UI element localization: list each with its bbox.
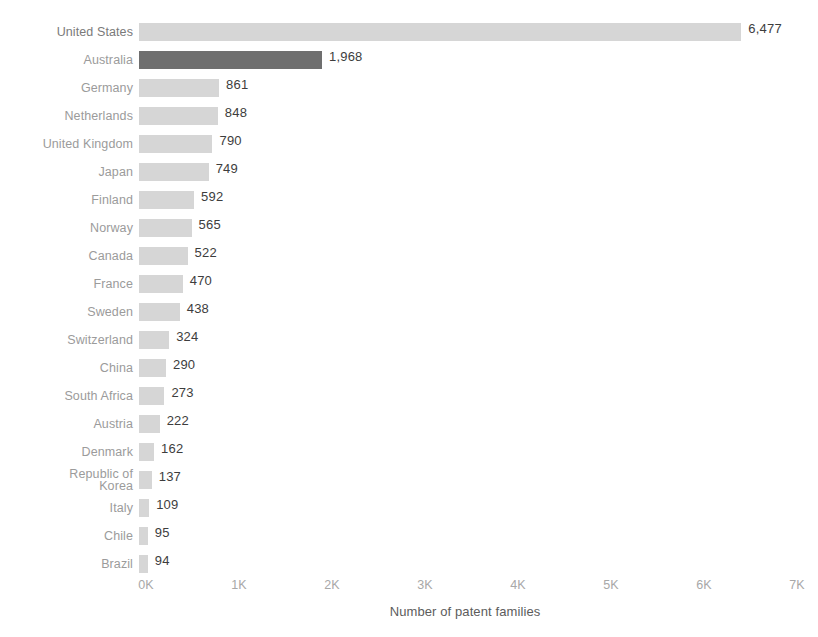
bar-row[interactable]: United Kingdom790: [0, 130, 818, 158]
bar-row[interactable]: Republic ofKorea137: [0, 466, 818, 494]
bar-track: [139, 191, 194, 209]
bar-row[interactable]: Canada522: [0, 242, 818, 270]
bar[interactable]: [139, 555, 148, 573]
category-label: Chile: [0, 530, 133, 543]
x-axis-tick-label: 2K: [324, 578, 339, 592]
bar-value-label: 95: [155, 525, 170, 540]
bar-value-label: 438: [187, 301, 209, 316]
category-label: South Africa: [0, 390, 133, 403]
bar[interactable]: [139, 79, 219, 97]
bar-track: [139, 527, 148, 545]
bar-value-label: 522: [195, 245, 217, 260]
bar[interactable]: [139, 499, 149, 517]
bar-track: [139, 471, 152, 489]
bar[interactable]: [139, 415, 160, 433]
bar-value-label: 324: [176, 329, 198, 344]
x-axis-tick-label: 5K: [603, 578, 618, 592]
x-axis-tick-label: 6K: [696, 578, 711, 592]
category-label: Italy: [0, 502, 133, 515]
bar-row[interactable]: United States6,477: [0, 18, 818, 46]
bar-track: [139, 163, 209, 181]
bar-track: [139, 303, 180, 321]
category-label: Japan: [0, 166, 133, 179]
category-label: Sweden: [0, 306, 133, 319]
x-axis-tick-label: 3K: [417, 578, 432, 592]
bar-track: [139, 107, 218, 125]
bar-value-label: 290: [173, 357, 195, 372]
bar[interactable]: [139, 219, 192, 237]
bar[interactable]: [139, 471, 152, 489]
bar[interactable]: [139, 275, 183, 293]
bar-track: [139, 275, 183, 293]
x-axis-title-text: Number of patent families: [390, 604, 541, 619]
bar-row[interactable]: Finland592: [0, 186, 818, 214]
x-axis-title: Number of patent families: [0, 604, 818, 619]
bar[interactable]: [139, 359, 166, 377]
bar-row[interactable]: Japan749: [0, 158, 818, 186]
x-axis-tick-label: 1K: [231, 578, 246, 592]
bar-row[interactable]: Australia1,968: [0, 46, 818, 74]
category-label: Norway: [0, 222, 133, 235]
bar-row[interactable]: Austria222: [0, 410, 818, 438]
bar-row[interactable]: Norway565: [0, 214, 818, 242]
bar-row[interactable]: Sweden438: [0, 298, 818, 326]
bar-row[interactable]: Chile95: [0, 522, 818, 550]
bar[interactable]: [139, 135, 212, 153]
bar-value-label: 592: [201, 189, 223, 204]
bar[interactable]: [139, 107, 218, 125]
bar-chart: United States6,477Australia1,968Germany8…: [0, 0, 818, 637]
bar-value-label: 222: [167, 413, 189, 428]
bar-row[interactable]: Denmark162: [0, 438, 818, 466]
category-label: Republic ofKorea: [0, 468, 133, 493]
bar-value-label: 109: [156, 497, 178, 512]
bar-row[interactable]: Netherlands848: [0, 102, 818, 130]
bar-row[interactable]: South Africa273: [0, 382, 818, 410]
category-label: Denmark: [0, 446, 133, 459]
bar[interactable]: [139, 387, 164, 405]
x-axis-tick-label: 7K: [789, 578, 804, 592]
bar[interactable]: [139, 303, 180, 321]
bar-track: [139, 555, 148, 573]
category-label: United States: [0, 26, 133, 39]
bar[interactable]: [139, 527, 148, 545]
plot-area: United States6,477Australia1,968Germany8…: [0, 18, 818, 568]
bar-value-label: 749: [216, 161, 238, 176]
bar-track: [139, 331, 169, 349]
bar-highlighted[interactable]: [139, 51, 322, 69]
bar[interactable]: [139, 247, 188, 265]
category-label: Australia: [0, 54, 133, 67]
bar-value-label: 1,968: [329, 49, 363, 64]
bar-value-label: 273: [171, 385, 193, 400]
category-label: Switzerland: [0, 334, 133, 347]
bar-track: [139, 387, 164, 405]
category-label: Canada: [0, 250, 133, 263]
bar-row[interactable]: Brazil94: [0, 550, 818, 578]
bar[interactable]: [139, 23, 741, 41]
bar[interactable]: [139, 443, 154, 461]
bar-track: [139, 443, 154, 461]
bar-track: [139, 51, 322, 69]
bar-track: [139, 23, 741, 41]
category-label: United Kingdom: [0, 138, 133, 151]
bar-value-label: 470: [190, 273, 212, 288]
bar-track: [139, 359, 166, 377]
bar[interactable]: [139, 331, 169, 349]
bar-value-label: 790: [219, 133, 241, 148]
bar-track: [139, 219, 192, 237]
bar-value-label: 565: [199, 217, 221, 232]
bar-value-label: 861: [226, 77, 248, 92]
bar-value-label: 6,477: [748, 21, 782, 36]
bar-row[interactable]: France470: [0, 270, 818, 298]
bar[interactable]: [139, 163, 209, 181]
bar-row[interactable]: China290: [0, 354, 818, 382]
bar-value-label: 162: [161, 441, 183, 456]
category-label: Germany: [0, 82, 133, 95]
bar[interactable]: [139, 191, 194, 209]
bar-row[interactable]: Italy109: [0, 494, 818, 522]
bar-value-label: 848: [225, 105, 247, 120]
bar-row[interactable]: Germany861: [0, 74, 818, 102]
bar-value-label: 137: [159, 469, 181, 484]
bar-track: [139, 499, 149, 517]
bar-track: [139, 135, 212, 153]
bar-row[interactable]: Switzerland324: [0, 326, 818, 354]
